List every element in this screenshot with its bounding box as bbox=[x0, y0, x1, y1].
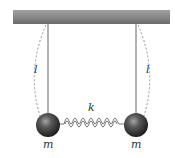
ceiling-bar bbox=[13, 10, 170, 24]
right-mass-label: m bbox=[131, 139, 141, 150]
left-length-label: l bbox=[34, 64, 38, 75]
spring-constant-label: k bbox=[88, 102, 95, 113]
spring bbox=[60, 118, 124, 127]
coupled-pendulum-diagram bbox=[0, 0, 175, 158]
right-length-label: l bbox=[146, 64, 150, 75]
right-mass-ball bbox=[124, 113, 148, 137]
left-mass-ball bbox=[36, 113, 60, 137]
left-mass-label: m bbox=[43, 139, 53, 150]
